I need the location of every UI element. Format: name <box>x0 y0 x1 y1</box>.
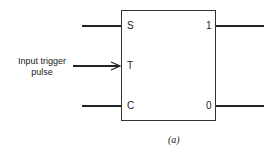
output-line-1 <box>216 25 264 27</box>
output-label-0: 0 <box>206 101 212 111</box>
input-label-s: S <box>127 21 134 31</box>
output-line-0 <box>216 105 264 107</box>
trigger-label-line2: pulse <box>14 67 70 78</box>
input-line-c <box>82 105 121 107</box>
trigger-label: Input trigger pulse <box>14 56 70 78</box>
trigger-label-line1: Input trigger <box>14 56 70 67</box>
input-label-c: C <box>127 101 134 111</box>
output-label-1: 1 <box>206 21 212 31</box>
input-label-t: T <box>127 61 133 71</box>
figure-caption: (a) <box>168 134 180 145</box>
